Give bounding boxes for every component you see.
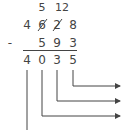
strike-2 — [53, 19, 62, 31]
arrow-ones — [73, 70, 120, 86]
diagram-lines — [0, 0, 132, 130]
arrow-hundreds — [42, 70, 120, 116]
strike-6 — [38, 19, 47, 31]
